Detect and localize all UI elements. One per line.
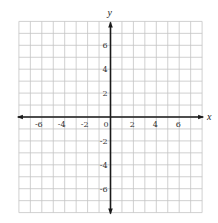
y-tick-label: 6 (102, 41, 107, 50)
x-axis-arrow-left-icon (17, 115, 23, 120)
y-axis-arrow-up-icon (108, 21, 113, 27)
y-tick-label: 4 (102, 65, 107, 74)
x-tick-label: -2 (81, 120, 89, 129)
axes (17, 21, 204, 214)
x-axis-title: x (206, 111, 212, 122)
x-axis-arrow-right-icon (198, 115, 204, 120)
x-tick-label: 6 (176, 120, 181, 129)
coordinate-plane: -6-4-20246-6-4-2246 x y (0, 0, 218, 223)
x-tick-label: -4 (58, 120, 66, 129)
y-tick-label: -2 (100, 137, 108, 146)
x-tick-label: 0 (103, 120, 108, 129)
x-tick-label: 2 (130, 120, 135, 129)
y-axis-title: y (107, 7, 113, 18)
y-tick-label: -4 (100, 161, 108, 170)
x-tick-label: -6 (35, 120, 43, 129)
y-axis-arrow-down-icon (108, 209, 113, 215)
x-tick-label: 4 (153, 120, 158, 129)
y-tick-label: -6 (100, 185, 108, 194)
y-tick-label: 2 (102, 89, 107, 98)
